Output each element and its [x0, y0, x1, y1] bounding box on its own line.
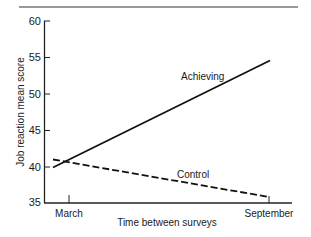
y-tick-55: 55 [29, 51, 41, 63]
x-tick-september: September [245, 208, 295, 219]
y-tick-45: 45 [29, 124, 41, 136]
y-tick-35: 35 [29, 196, 41, 208]
x-tick-march: March [55, 208, 83, 219]
y-axis [44, 21, 50, 203]
x-axis-label: Time between surveys [117, 217, 217, 228]
series-label-control: Control [177, 169, 209, 180]
y-tick-50: 50 [29, 88, 41, 100]
x-axis [44, 195, 292, 203]
y-axis-label: Job reaction mean score [15, 57, 26, 167]
series-control-line [53, 160, 269, 198]
y-tick-60: 60 [29, 15, 41, 27]
series-label-achieving: Achieving [181, 71, 224, 82]
line-chart: 35 40 45 50 55 60 March September Time b… [0, 0, 311, 237]
y-tick-labels: 35 40 45 50 55 60 [29, 15, 41, 208]
series-achieving-line [53, 61, 270, 168]
y-tick-40: 40 [29, 161, 41, 173]
